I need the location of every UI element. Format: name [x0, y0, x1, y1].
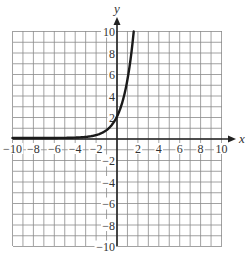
y-axis-arrow-icon: [114, 17, 121, 25]
x-tick-label: −10: [3, 142, 22, 156]
x-axis-arrow-icon: [228, 136, 236, 143]
x-tick-label: −6: [48, 142, 61, 156]
x-axis-label: x: [238, 131, 245, 146]
x-tick-label: 2: [135, 142, 141, 156]
y-tick-label: 4: [109, 90, 115, 104]
x-tick-label: −4: [69, 142, 82, 156]
y-tick-label: −6: [102, 197, 115, 211]
axes: [13, 17, 236, 246]
y-tick-label: 6: [109, 68, 115, 82]
x-tick-label: 10: [216, 142, 228, 156]
x-tick-label: −2: [90, 142, 103, 156]
x-tick-label: 8: [198, 142, 204, 156]
y-tick-label: −8: [102, 219, 115, 233]
x-tick-label: 6: [177, 142, 183, 156]
y-tick-label: −10: [96, 240, 115, 254]
y-tick-label: −2: [102, 154, 115, 168]
coordinate-plane: −10−8−6−4−2246810108642−2−4−6−8−10 x y: [0, 0, 248, 261]
x-tick-label: 4: [156, 142, 162, 156]
x-tick-label: −8: [27, 142, 40, 156]
y-tick-label: −4: [102, 176, 115, 190]
y-tick-label: 10: [103, 25, 115, 39]
y-tick-label: 8: [109, 47, 115, 61]
y-axis-label: y: [112, 1, 120, 16]
